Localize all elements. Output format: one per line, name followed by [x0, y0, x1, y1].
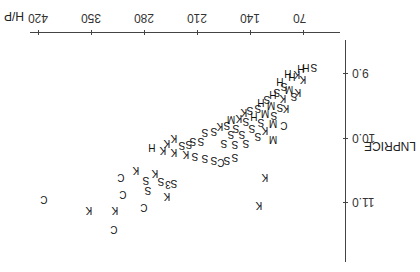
- data-point-marker: S: [186, 139, 193, 149]
- data-point-marker: H: [277, 76, 284, 86]
- data-point-marker: K: [283, 103, 290, 113]
- data-point-marker: K: [256, 200, 263, 210]
- data-point-marker: S: [254, 131, 261, 141]
- data-point-marker: S: [310, 62, 317, 72]
- x-tick-label: 140: [240, 12, 260, 24]
- data-point-marker: K: [262, 125, 269, 135]
- data-point-marker: K: [163, 191, 170, 201]
- data-point-marker: S: [192, 151, 199, 161]
- data-point-marker: K: [112, 205, 119, 215]
- data-point-marker: K: [171, 133, 178, 143]
- data-point-marker: S: [197, 136, 204, 146]
- data-point-marker: S: [232, 139, 239, 149]
- y-tick-label: 9.0: [352, 67, 369, 79]
- x-tick-mark: [91, 30, 92, 35]
- x-axis-title: H/P: [4, 10, 24, 22]
- x-tick-mark: [38, 30, 39, 35]
- y-tick-mark: [343, 202, 348, 203]
- x-tick-mark: [303, 30, 304, 35]
- data-point-marker: K: [85, 205, 92, 215]
- y-tick-mark: [343, 73, 348, 74]
- data-point-marker: 3: [165, 179, 171, 189]
- y-tick-mark: [343, 138, 348, 139]
- data-point-marker: K: [160, 145, 167, 155]
- y-tick-label: 11.0: [352, 196, 374, 208]
- data-point-marker: C: [140, 202, 147, 212]
- data-point-marker: S: [224, 155, 231, 165]
- data-point-marker: C: [119, 189, 126, 199]
- data-point-marker: S: [228, 129, 235, 139]
- data-point-marker: S: [201, 153, 208, 163]
- data-point-marker: S: [142, 175, 149, 185]
- scatter-plot: 70140210280350420 H/P 9.010.011.0 LNPRIC…: [0, 0, 420, 272]
- data-point-marker: S: [243, 138, 250, 148]
- x-axis-line: [30, 32, 340, 33]
- x-tick-label: 420: [28, 12, 48, 24]
- data-point-marker: H: [284, 68, 291, 78]
- data-point-marker: S: [220, 138, 227, 148]
- data-point-marker: S: [210, 155, 217, 165]
- data-point-marker: C: [280, 120, 287, 130]
- data-point-marker: C: [110, 224, 117, 234]
- data-point-marker: C: [118, 172, 125, 182]
- x-tick-label: 70: [293, 12, 306, 24]
- x-tick-mark: [250, 30, 251, 35]
- data-point-marker: K: [182, 149, 189, 159]
- data-point-marker: M: [269, 118, 277, 128]
- data-point-marker: C: [40, 194, 47, 204]
- data-point-marker: K: [235, 113, 242, 123]
- data-point-marker: S: [144, 185, 151, 195]
- data-point-marker: K: [133, 165, 140, 175]
- data-point-marker: S: [157, 176, 164, 186]
- data-point-marker: S: [291, 91, 298, 101]
- x-tick-label: 280: [134, 12, 154, 24]
- data-point-marker: K: [216, 121, 223, 131]
- x-tick-label: 350: [81, 12, 101, 24]
- data-point-marker: K: [262, 172, 269, 182]
- data-point-marker: H: [250, 111, 257, 121]
- data-point-marker: S: [232, 152, 239, 162]
- data-point-marker: K: [280, 93, 287, 103]
- x-tick-mark: [144, 30, 145, 35]
- data-point-marker: K: [171, 147, 178, 157]
- y-axis-title: LNPRICE: [364, 140, 416, 152]
- data-point-marker: M: [269, 134, 277, 144]
- data-point-marker: K: [300, 74, 307, 84]
- data-point-marker: S: [210, 126, 217, 136]
- data-point-marker: H: [148, 142, 155, 152]
- data-point-marker: S: [171, 178, 178, 188]
- x-tick-label: 210: [187, 12, 207, 24]
- x-tick-mark: [197, 30, 198, 35]
